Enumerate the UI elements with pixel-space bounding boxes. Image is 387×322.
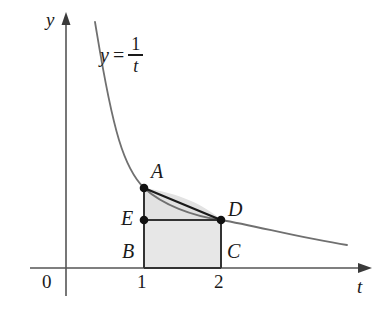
- y-axis-arrow-icon: [62, 12, 71, 25]
- origin-label: 0: [42, 272, 52, 291]
- equation-denominator: t: [131, 56, 140, 75]
- x-axis-label: t: [357, 277, 362, 296]
- equation-equals-sign: =: [113, 44, 123, 67]
- point-label-c: C: [227, 241, 240, 261]
- y-axis-label: y: [46, 10, 54, 29]
- hyperbola-diagram-svg: [0, 0, 387, 322]
- point-label-e: E: [121, 208, 133, 228]
- x-tick-label-2: 2: [214, 272, 224, 291]
- shaded-rectangle-ebcd: [144, 220, 221, 268]
- figure-container: y t 0 1 2 A B C D E y = 1 t: [0, 0, 387, 322]
- equation-numerator: 1: [129, 35, 142, 54]
- point-label-a: A: [151, 161, 163, 181]
- point-a-dot: [140, 184, 149, 193]
- x-axis-arrow-icon: [358, 263, 372, 273]
- point-label-b: B: [122, 241, 134, 261]
- equation-lhs: y: [100, 44, 109, 67]
- point-label-d: D: [228, 199, 242, 219]
- curve-equation-label: y = 1 t: [100, 36, 143, 76]
- equation-fraction: 1 t: [128, 35, 143, 75]
- point-d-dot: [217, 216, 226, 225]
- x-tick-label-1: 1: [137, 272, 147, 291]
- point-e-dot: [140, 216, 149, 225]
